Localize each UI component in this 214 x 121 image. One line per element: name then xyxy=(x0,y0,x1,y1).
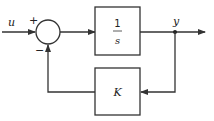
input-label: u xyxy=(8,16,15,29)
plus-sign: + xyxy=(29,14,38,27)
block-diagram: u + − 1 s y K xyxy=(0,0,214,121)
summing-junction xyxy=(36,20,60,44)
feedback-path-to-gain xyxy=(141,32,175,92)
output-label: y xyxy=(172,15,180,28)
integrator-numerator: 1 xyxy=(114,18,120,29)
integrator-denominator: s xyxy=(115,35,120,46)
gain-label: K xyxy=(112,86,122,99)
feedback-path-to-junction xyxy=(48,45,95,92)
minus-sign: − xyxy=(35,44,44,57)
